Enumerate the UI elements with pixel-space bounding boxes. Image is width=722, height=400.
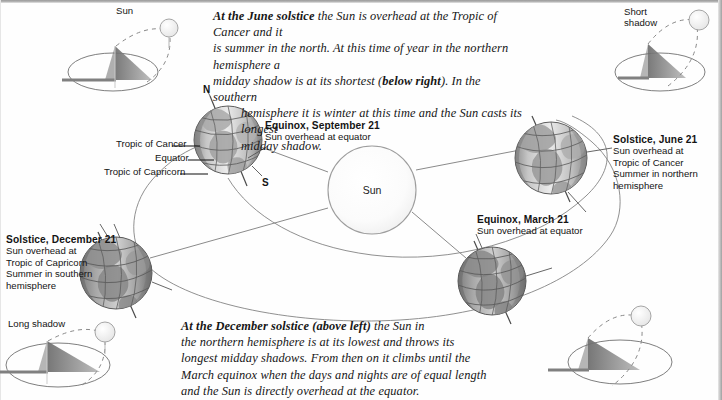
shadow-diagram-bottom-left (0, 322, 115, 387)
caption-june-line2: is summer in the north. At this time of … (213, 40, 525, 72)
globe-solstice-june (515, 116, 612, 212)
label-solstice-december-line4: hemisphere (6, 280, 116, 291)
caption-dec-line2: the northern hemisphere is at its lowest… (181, 334, 521, 350)
label-solstice-june-heading: Solstice, June 21 (613, 134, 698, 145)
label-equinox-march: Equinox, March 21 Sun overhead at equato… (477, 214, 583, 237)
label-south-pole: S (262, 177, 269, 188)
seasons-figure: Sun (0, 0, 722, 400)
label-solstice-december: Solstice, December 21 Sun overhead at Tr… (6, 234, 116, 291)
label-solstice-june-line3: Summer in northern (613, 168, 698, 179)
label-solstice-june: Solstice, June 21 Sun overhead at Tropic… (613, 134, 698, 191)
label-tropic-of-cancer: Tropic of Cancer (116, 138, 187, 149)
caption-dec-lead: At the December solstice (181, 319, 309, 333)
label-tropic-of-capricorn: Tropic of Capricorn (104, 166, 185, 177)
caption-june-line3a: midday shadow is at its shortest ( (213, 74, 382, 88)
caption-dec-above-left: (above left) (312, 319, 371, 333)
label-solstice-june-line4: hemisphere (613, 180, 698, 191)
caption-june-below-right: below right (382, 74, 441, 88)
label-short-shadow: Short shadow (624, 6, 657, 29)
central-sun-label: Sun (363, 184, 382, 196)
shadow-diagram-top-left (62, 19, 178, 91)
label-equinox-march-heading: Equinox, March 21 (477, 214, 583, 225)
label-equinox-march-line1: Sun overhead at equator (477, 225, 583, 236)
label-equator: Equator (155, 152, 189, 163)
shadow-diagram-bottom-right (548, 306, 672, 386)
label-equinox-september-heading: Equinox, September 21 (265, 120, 380, 131)
label-short-shadow-line2: shadow (624, 17, 657, 28)
central-sun: Sun (328, 146, 416, 234)
label-solstice-december-line1: Sun overhead at (6, 245, 116, 256)
label-equinox-september-line1: Sun overhead at equator (265, 131, 380, 142)
label-short-shadow-line1: Short (624, 6, 657, 17)
label-solstice-december-line2: Tropic of Capricorn (6, 257, 116, 268)
label-north-pole: N (203, 84, 210, 95)
label-solstice-december-line3: Summer in southern (6, 268, 116, 279)
label-sun-top-left: Sun (116, 5, 133, 16)
label-equinox-september: Equinox, September 21 Sun overhead at eq… (265, 120, 380, 143)
caption-dec-line1: the Sun in (371, 319, 425, 333)
label-solstice-june-line1: Sun overhead at (613, 145, 698, 156)
caption-dec-line3: longest midday shadows. From then on it … (181, 350, 521, 366)
caption-dec-line4: March equinox when the days and nights a… (181, 367, 521, 383)
label-solstice-december-heading: Solstice, December 21 (6, 234, 116, 245)
caption-december-solstice: At the December solstice (above left) th… (181, 318, 521, 399)
caption-dec-line5: and the Sun is directly overhead at the … (181, 383, 521, 399)
label-solstice-june-line2: Tropic of Cancer (613, 157, 698, 168)
label-long-shadow: Long shadow (8, 318, 65, 329)
caption-june-lead: At the June solstice (213, 9, 314, 23)
